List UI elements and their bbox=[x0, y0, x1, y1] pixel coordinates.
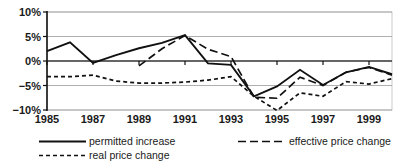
legend-label-permitted-increase: permitted increase bbox=[89, 135, 176, 147]
series-effective-price-change bbox=[139, 36, 392, 99]
chart-svg: 10% 5% 0% −5% −10% 1985 1987 1989 1991 1… bbox=[0, 0, 404, 163]
x-tick-label: 1985 bbox=[35, 113, 59, 125]
x-tick-label: 1995 bbox=[265, 113, 289, 125]
legend-label-real-price-change: real price change bbox=[89, 149, 170, 161]
price-change-line-chart: 10% 5% 0% −5% −10% 1985 1987 1989 1991 1… bbox=[0, 0, 404, 163]
x-axis-labels: 1985 1987 1989 1991 1993 1995 1997 1999 bbox=[35, 113, 381, 125]
y-tick-label: −5% bbox=[19, 80, 42, 92]
series-real-price-change bbox=[47, 75, 392, 110]
data-series bbox=[47, 35, 392, 110]
y-tick-label: 0% bbox=[25, 55, 41, 67]
x-tick-label: 1993 bbox=[219, 113, 243, 125]
x-tick-label: 1987 bbox=[81, 113, 105, 125]
x-tick-label: 1989 bbox=[127, 113, 151, 125]
series-permitted-increase bbox=[47, 35, 392, 96]
y-axis-labels: 10% 5% 0% −5% −10% bbox=[13, 6, 42, 116]
chart-legend: permitted increase effective price chang… bbox=[39, 135, 391, 161]
y-tick-label: 5% bbox=[25, 31, 41, 43]
x-tick-label: 1991 bbox=[173, 113, 197, 125]
x-tick-label: 1997 bbox=[311, 113, 335, 125]
y-tick-label: 10% bbox=[19, 6, 41, 18]
x-tick-label: 1999 bbox=[357, 113, 381, 125]
legend-label-effective-price-change: effective price change bbox=[289, 135, 391, 147]
